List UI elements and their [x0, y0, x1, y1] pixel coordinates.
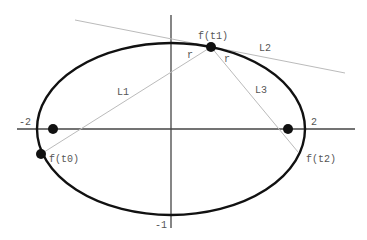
label-x-min: -2 [19, 117, 31, 128]
label-l2: L2 [259, 43, 271, 54]
line-l1 [41, 47, 211, 154]
point-f-t0 [36, 149, 46, 159]
label-l3: L3 [255, 85, 267, 96]
point-focus-right [283, 124, 293, 134]
label-f-t0: f(t0) [49, 154, 79, 165]
label-angle-r-left: r [187, 50, 193, 61]
label-angle-r-right: r [224, 54, 230, 65]
label-f-t1: f(t1) [198, 31, 228, 42]
ellipse-diagram: f(t1) f(t0) f(t2) L1 L2 L3 r r -2 2 -1 [0, 0, 367, 240]
label-x-max: 2 [311, 117, 317, 128]
label-l1: L1 [117, 87, 129, 98]
point-f-t1 [206, 42, 216, 52]
point-focus-left [48, 124, 58, 134]
label-f-t2: f(t2) [306, 154, 336, 165]
label-y-min: -1 [155, 220, 167, 231]
